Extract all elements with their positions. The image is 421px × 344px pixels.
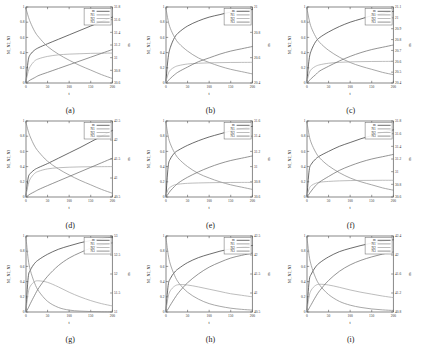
x-tick-label: 200: [250, 85, 255, 89]
x-tick-label: 150: [369, 314, 374, 318]
y-tick-label-left: 0.6: [20, 36, 25, 40]
y-tick-label-left: 0: [163, 310, 165, 314]
x-tick-label: 50: [46, 314, 50, 318]
y-tick-label-right: 31.6: [254, 120, 260, 124]
y-tick-label-left: 0.8: [20, 21, 25, 25]
y-tick-label-right: 42.4: [395, 234, 401, 238]
x-tick-label: 0: [306, 314, 308, 318]
y-tick-label-right: 40.5: [114, 196, 120, 200]
y-tick-label-right: 41: [254, 291, 258, 295]
y-tick-label-right: 41.5: [114, 158, 120, 162]
y-tick-label-right: 31.6: [395, 132, 401, 136]
legend-box-c: [365, 8, 392, 25]
x-tick-label: 100: [347, 199, 352, 203]
y-tick-label-left: 1: [23, 5, 25, 9]
y-axis-label-right: m: [266, 271, 271, 275]
y-axis-label-right: m: [406, 43, 411, 47]
y-tick-label-left: 0: [23, 81, 25, 85]
legend-label-N3: N3: [90, 20, 94, 24]
y-tick-label-left: 0.8: [160, 135, 165, 139]
y-tick-label-left: 0.2: [20, 180, 25, 184]
x-tick-label: 0: [306, 199, 308, 203]
plot-area-a: 05010015020000.20.40.60.8130.630.83131.2…: [0, 0, 140, 98]
y-tick-label-left: 0.2: [301, 295, 306, 299]
y-tick-label-left: 1: [303, 120, 305, 124]
y-axis-label-right: m: [126, 43, 131, 47]
y-tick-label-right: 20.7: [395, 49, 401, 53]
panel-caption-g: (g): [0, 335, 140, 344]
y-tick-label-right: 31.4: [114, 31, 120, 35]
panel-h: 05010015020000.20.40.60.8140.54141.54242…: [140, 229, 280, 343]
panel-d: 05010015020000.20.40.60.8140.54141.54242…: [0, 114, 140, 228]
y-axis-label-right: m: [126, 271, 131, 275]
x-tick-label: 50: [46, 85, 50, 89]
y-tick-label-right: 42.5: [254, 234, 260, 238]
y-axis-label-right: m: [406, 271, 411, 275]
legend-box-e: [224, 123, 251, 140]
y-axis-label-right: m: [266, 157, 271, 161]
x-tick-label: 50: [326, 85, 330, 89]
y-tick-label-right: 52.5: [114, 253, 120, 257]
y-tick-label-left: 0.2: [301, 180, 306, 184]
y-axis-label-right: m: [266, 43, 271, 47]
y-tick-label-right: 20.6: [395, 60, 401, 64]
y-axis-label-left: N1, N2, N3: [287, 36, 293, 55]
panel-f: 05010015020000.20.40.60.8130.630.83131.2…: [281, 114, 421, 228]
x-tick-label: 200: [110, 314, 115, 318]
curve-m: [26, 131, 112, 196]
curve-N2: [166, 284, 252, 310]
x-tick-label: 50: [186, 85, 190, 89]
panel-caption-i: (i): [281, 335, 421, 344]
y-tick-label-left: 0.4: [160, 279, 165, 283]
legend-box-i: [365, 237, 392, 254]
panel-g: 05010015020000.20.40.60.815151.55252.553…: [0, 229, 140, 343]
y-tick-label-left: 1: [23, 120, 25, 124]
x-tick-label: 200: [390, 314, 395, 318]
legend-label-N3: N3: [371, 20, 375, 24]
y-tick-label-right: 31.2: [395, 158, 401, 162]
curve-N2: [26, 53, 112, 81]
y-tick-label-right: 30.6: [114, 81, 120, 85]
y-tick-label-left: 1: [303, 234, 305, 238]
y-tick-label-right: 41: [114, 177, 118, 181]
y-axis-label-left: N1, N2, N3: [287, 264, 293, 283]
y-axis-label-left: N1, N2, N3: [147, 264, 153, 283]
y-tick-label-right: 31.8: [395, 120, 401, 124]
x-tick-label: 150: [88, 314, 93, 318]
legend-label-N3: N3: [231, 249, 235, 253]
plot-area-c: 05010015020000.20.40.60.8120.420.520.620…: [281, 0, 421, 98]
x-tick-label: 150: [228, 314, 233, 318]
panel-a: 05010015020000.20.40.60.8130.630.83131.2…: [0, 0, 140, 114]
y-tick-label-left: 0.6: [160, 150, 165, 154]
y-tick-label-right: 51: [114, 310, 118, 314]
x-tick-label: 150: [228, 85, 233, 89]
plot-area-i: 05010015020000.20.40.60.8140.841.241.642…: [281, 229, 421, 327]
y-tick-label-right: 30.8: [254, 180, 260, 184]
y-tick-label-right: 20.5: [395, 70, 401, 74]
y-tick-label-left: 1: [303, 5, 305, 9]
legend-label-N3: N3: [371, 249, 375, 253]
x-tick-label: 200: [390, 85, 395, 89]
x-axis-label: t: [209, 320, 211, 325]
x-tick-label: 0: [25, 314, 27, 318]
x-tick-label: 50: [186, 314, 190, 318]
x-tick-label: 0: [165, 199, 167, 203]
plot-area-h: 05010015020000.20.40.60.8140.54141.54242…: [140, 229, 280, 327]
curve-N2: [26, 167, 112, 196]
legend-label-N3: N3: [371, 135, 375, 139]
plot-area-b: 05010015020000.20.40.60.8120.420.620.821…: [140, 0, 280, 98]
legend-label-N3: N3: [90, 135, 94, 139]
y-tick-label-left: 0.4: [301, 279, 306, 283]
y-tick-label-left: 0.6: [160, 36, 165, 40]
x-tick-label: 150: [369, 85, 374, 89]
x-tick-label: 100: [67, 199, 72, 203]
x-tick-label: 150: [369, 199, 374, 203]
y-tick-label-right: 42: [254, 253, 258, 257]
y-tick-label-left: 0.8: [160, 21, 165, 25]
x-axis-label: t: [69, 91, 71, 96]
y-tick-label-right: 41.2: [395, 291, 401, 295]
legend-box-d: [84, 123, 111, 140]
x-axis-label: t: [349, 320, 351, 325]
y-tick-label-left: 0.8: [20, 249, 25, 253]
